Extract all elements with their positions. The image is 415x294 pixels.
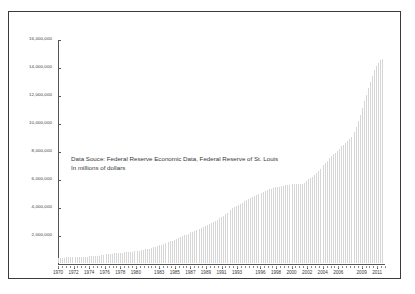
y-axis-tick-label: 16,000,000 [29, 36, 52, 41]
annotation-line-source: Data Souce: Federal Reserve Economic Dat… [71, 154, 278, 163]
x-axis-minor-tick [288, 266, 289, 268]
x-axis-minor-tick [245, 266, 246, 268]
x-axis-minor-tick [113, 266, 114, 268]
x-axis-minor-tick [128, 266, 129, 268]
x-axis-minor-tick [342, 266, 343, 268]
x-axis-tick-label: 1993 [232, 270, 242, 275]
x-axis-minor-tick [222, 266, 223, 268]
x-axis-minor-tick [62, 266, 63, 268]
x-axis-minor-tick [148, 266, 149, 268]
x-axis-tick-label: 1970 [53, 270, 63, 275]
x-axis-tick-label: 2002 [302, 270, 312, 275]
x-axis-minor-tick [85, 266, 86, 268]
x-axis-minor-tick [272, 266, 273, 268]
x-axis-minor-tick [354, 266, 355, 268]
x-axis-minor-tick [334, 266, 335, 268]
x-axis-minor-tick [350, 266, 351, 268]
x-axis-tick-label: 2011 [372, 270, 382, 275]
x-axis-minor-tick [346, 266, 347, 268]
x-axis-minor-tick [280, 266, 281, 268]
x-axis-minor-tick [77, 266, 78, 268]
x-axis-tick-label: 2000 [286, 270, 296, 275]
x-axis-minor-tick [276, 266, 277, 268]
x-axis-minor-tick [377, 266, 378, 268]
x-axis-labels: 1970197219741976197819801983198519871989… [58, 266, 385, 280]
x-axis-tick-label: 1972 [68, 270, 78, 275]
x-axis-minor-tick [253, 266, 254, 268]
x-axis-minor-tick [120, 266, 121, 268]
x-axis-tick-label: 1989 [201, 270, 211, 275]
annotation-line-units: In millions of dollars [71, 163, 278, 172]
x-axis-minor-tick [179, 266, 180, 268]
x-axis-minor-tick [81, 266, 82, 268]
plot-area [58, 41, 384, 263]
x-axis-minor-tick [369, 266, 370, 268]
x-axis-tick-label: 1974 [84, 270, 94, 275]
x-axis-minor-tick [144, 266, 145, 268]
x-axis-tick-label: 1987 [185, 270, 195, 275]
x-axis-tick-label: 1976 [100, 270, 110, 275]
x-axis-minor-tick [257, 266, 258, 268]
x-axis-minor-tick [101, 266, 102, 268]
x-axis-minor-tick [171, 266, 172, 268]
x-axis-minor-tick [319, 266, 320, 268]
x-axis-minor-tick [97, 266, 98, 268]
x-axis-minor-tick [89, 266, 90, 268]
x-axis-minor-tick [338, 266, 339, 268]
x-axis-tick-label: 1980 [131, 270, 141, 275]
x-axis-minor-tick [116, 266, 117, 268]
x-axis-minor-tick [268, 266, 269, 268]
x-axis-minor-tick [66, 266, 67, 268]
x-axis-tick-label: 1996 [255, 270, 265, 275]
x-axis-minor-tick [241, 266, 242, 268]
x-axis-minor-tick [225, 266, 226, 268]
x-axis-minor-tick [214, 266, 215, 268]
x-axis-minor-tick [198, 266, 199, 268]
x-axis-tick-label: 1991 [216, 270, 226, 275]
x-axis-minor-tick [295, 266, 296, 268]
bar [382, 59, 384, 263]
x-axis-minor-tick [303, 266, 304, 268]
x-axis-minor-tick [373, 266, 374, 268]
x-axis-minor-tick [132, 266, 133, 268]
x-axis-minor-tick [74, 266, 75, 268]
x-axis-minor-tick [327, 266, 328, 268]
x-axis-tick-label: 2006 [333, 270, 343, 275]
x-axis-minor-tick [292, 266, 293, 268]
x-axis-minor-tick [233, 266, 234, 268]
x-axis-minor-tick [186, 266, 187, 268]
x-axis-minor-tick [136, 266, 137, 268]
x-axis-minor-tick [366, 266, 367, 268]
y-axis-tick-label: 4,000,000 [32, 204, 52, 209]
x-axis-minor-tick [260, 266, 261, 268]
x-axis-minor-tick [331, 266, 332, 268]
x-axis-tick-label: 1985 [170, 270, 180, 275]
x-axis-minor-tick [284, 266, 285, 268]
y-axis-tick-label: 2,000,000 [32, 232, 52, 237]
x-axis-minor-tick [202, 266, 203, 268]
bar-series [58, 41, 384, 263]
x-axis-minor-tick [218, 266, 219, 268]
x-axis-minor-tick [140, 266, 141, 268]
x-axis-minor-tick [58, 266, 59, 268]
chart-figure: 16,000,00014,000,00012,000,00010,000,000… [8, 11, 401, 279]
x-axis-tick-label: 2009 [357, 270, 367, 275]
y-axis-labels: 16,000,00014,000,00012,000,00010,000,000… [9, 40, 58, 264]
x-axis-minor-tick [70, 266, 71, 268]
x-axis-minor-tick [206, 266, 207, 268]
x-axis-minor-tick [229, 266, 230, 268]
y-axis-tick-label: 12,000,000 [29, 92, 52, 97]
x-axis-minor-tick [362, 266, 363, 268]
x-axis-tick-label: 1998 [271, 270, 281, 275]
x-axis-minor-tick [109, 266, 110, 268]
x-axis-tick-label: 1978 [115, 270, 125, 275]
x-axis-minor-tick [358, 266, 359, 268]
x-axis-minor-tick [323, 266, 324, 268]
x-axis-minor-tick [264, 266, 265, 268]
x-axis-minor-tick [307, 266, 308, 268]
x-axis-minor-tick [163, 266, 164, 268]
x-axis-spine [58, 264, 385, 265]
x-axis-minor-tick [381, 266, 382, 268]
x-axis-minor-tick [210, 266, 211, 268]
x-axis-minor-tick [93, 266, 94, 268]
